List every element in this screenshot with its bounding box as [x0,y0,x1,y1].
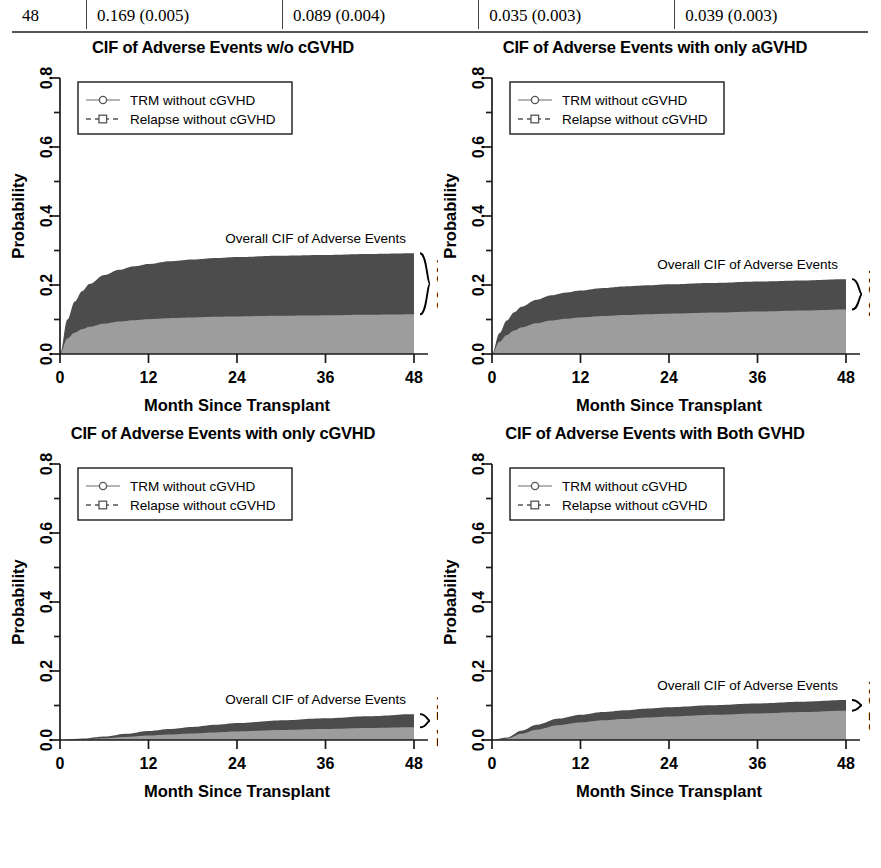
y-tick-label: 0.2 [470,274,487,296]
percentage-brace [420,714,430,727]
y-tick-label: 0.6 [38,136,55,158]
legend-label-relapse: Relapse without cGVHD [130,112,276,127]
y-tick-label: 0.2 [470,660,487,682]
panel-title: CIF of Adverse Events with only aGVHD [440,38,870,57]
y-tick-label: 0.4 [38,205,55,227]
table-cell-3: 0.035 (0.003) [479,0,675,29]
overall-cif-annotation: Overall CIF of Adverse Events [657,257,838,272]
percentage-brace [852,700,862,711]
circle-marker-icon [99,96,106,103]
x-axis-label: Month Since Transplant [144,782,331,800]
circle-marker-icon [99,482,106,489]
table-cell-1: 0.169 (0.005) [87,0,283,29]
statistics-table: 48 0.169 (0.005) 0.089 (0.004) 0.035 (0.… [12,0,870,29]
x-tick-label: 0 [56,369,65,386]
y-tick-label: 0.6 [38,522,55,544]
x-tick-label: 48 [837,369,855,386]
brace-percentage-label: 40.2% [866,267,871,321]
y-tick-label: 0.8 [38,67,55,89]
panel-title: CIF of Adverse Events with Both GVHD [440,424,870,443]
table-row: 48 0.169 (0.005) 0.089 (0.004) 0.035 (0.… [12,0,870,29]
legend-label-relapse: Relapse without cGVHD [130,498,276,513]
square-marker-icon [99,501,107,509]
y-tick-label: 0.4 [38,591,55,613]
x-tick-label: 36 [749,755,767,772]
x-tick-label: 12 [140,755,158,772]
panel-only-agvhd: CIF of Adverse Events with only aGVHD 0.… [440,38,870,438]
x-tick-label: 36 [749,369,767,386]
y-tick-label: 0.2 [38,274,55,296]
table-cell-month: 48 [12,0,87,29]
y-tick-label: 0.8 [470,453,487,475]
square-marker-icon [99,115,107,123]
y-tick-label: 0.6 [470,522,487,544]
circle-marker-icon [531,96,538,103]
legend-label-relapse: Relapse without cGVHD [562,498,708,513]
x-tick-label: 24 [228,369,246,386]
y-tick-label: 0.4 [470,591,487,613]
y-tick-label: 0.0 [38,729,55,751]
square-marker-icon [531,501,539,509]
legend-label-trm: TRM without cGVHD [130,479,256,494]
square-marker-icon [531,115,539,123]
panel-only-cgvhd: CIF of Adverse Events with only cGVHD 0.… [8,424,438,824]
y-tick-label: 0.8 [38,453,55,475]
cif-figure: CIF of Adverse Events w/o cGVHD 0.00.20.… [0,36,881,868]
y-axis-label: Probability [9,173,27,259]
x-tick-label: 0 [488,755,497,772]
table-fragment: 48 0.169 (0.005) 0.089 (0.004) 0.035 (0.… [0,0,881,36]
panel-title: CIF of Adverse Events with only cGVHD [8,424,438,443]
table-cell-2: 0.089 (0.004) [283,0,479,29]
overall-cif-annotation: Overall CIF of Adverse Events [225,692,406,707]
legend-label-trm: TRM without cGVHD [130,93,256,108]
table-bottom-rule [12,31,868,33]
panel-plot: 0.00.20.40.60.8012243648Month Since Tran… [8,442,438,822]
y-tick-label: 0.6 [470,136,487,158]
overall-cif-annotation: Overall CIF of Adverse Events [657,678,838,693]
legend-label-trm: TRM without cGVHD [562,479,688,494]
panel-plot: 0.00.20.40.60.8012243648Month Since Tran… [8,56,438,436]
x-tick-label: 12 [140,369,158,386]
x-tick-label: 12 [572,755,590,772]
y-axis-label: Probability [441,173,459,259]
percentage-brace [420,253,430,314]
x-tick-label: 48 [405,755,423,772]
legend-label-relapse: Relapse without cGVHD [562,112,708,127]
x-tick-label: 24 [660,369,678,386]
y-tick-label: 0.0 [470,729,487,751]
brace-percentage-label: 51.5% [434,694,439,748]
legend-label-trm: TRM without cGVHD [562,93,688,108]
x-tick-label: 36 [317,369,335,386]
x-tick-label: 48 [405,369,423,386]
table-cell-4: 0.039 (0.003) [675,0,870,29]
x-axis-label: Month Since Transplant [576,782,763,800]
circle-marker-icon [531,482,538,489]
y-tick-label: 0.2 [38,660,55,682]
y-axis-label: Probability [441,559,459,645]
y-tick-label: 0.0 [470,343,487,365]
brace-percentage-label: 35.8% [866,678,871,732]
x-tick-label: 24 [660,755,678,772]
x-axis-label: Month Since Transplant [144,396,331,414]
x-tick-label: 24 [228,755,246,772]
brace-percentage-label: 60.6% [434,257,439,311]
x-tick-label: 0 [488,369,497,386]
y-tick-label: 0.8 [470,67,487,89]
x-axis-label: Month Since Transplant [576,396,763,414]
panel-plot: 0.00.20.40.60.8012243648Month Since Tran… [440,56,870,436]
panel-plot: 0.00.20.40.60.8012243648Month Since Tran… [440,442,870,822]
overall-cif-annotation: Overall CIF of Adverse Events [225,231,406,246]
y-tick-label: 0.4 [470,205,487,227]
panel-wo-cgvhd: CIF of Adverse Events w/o cGVHD 0.00.20.… [8,38,438,438]
x-tick-label: 0 [56,755,65,772]
x-tick-label: 36 [317,755,335,772]
x-tick-label: 12 [572,369,590,386]
x-tick-label: 48 [837,755,855,772]
panel-both-gvhd: CIF of Adverse Events with Both GVHD 0.0… [440,424,870,824]
panel-title: CIF of Adverse Events w/o cGVHD [8,38,438,57]
y-axis-label: Probability [9,559,27,645]
y-tick-label: 0.0 [38,343,55,365]
percentage-brace [852,279,862,309]
